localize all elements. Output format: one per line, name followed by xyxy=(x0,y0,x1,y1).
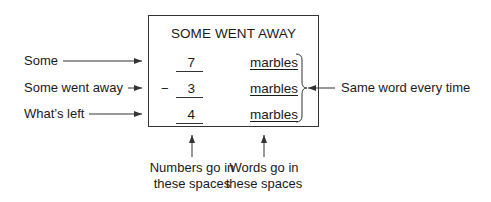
minus-sign: − xyxy=(161,81,169,96)
label-whats-left: What’s left xyxy=(24,106,84,121)
word-slot-some: marbles xyxy=(250,55,298,70)
caption-words-line1: Words go in xyxy=(222,160,306,176)
label-same-word-every-time: Same word every time xyxy=(341,80,470,95)
caption-words-line2: these spaces xyxy=(222,176,306,192)
number-slot-went-away: 3 xyxy=(176,82,203,98)
box-title: SOME WENT AWAY xyxy=(149,26,318,41)
word-slot-whats-left: marbles xyxy=(250,107,298,122)
label-some-went-away: Some went away xyxy=(24,80,123,95)
number-slot-some: 7 xyxy=(176,56,203,72)
number-value: 7 xyxy=(187,55,203,70)
number-value: 4 xyxy=(187,107,203,122)
subtraction-box: SOME WENT AWAY 7 marbles − 3 marbles 4 m… xyxy=(148,15,319,127)
label-some: Some xyxy=(24,53,58,68)
number-slot-whats-left: 4 xyxy=(176,108,203,124)
number-value: 3 xyxy=(187,81,203,96)
word-slot-went-away: marbles xyxy=(250,81,298,96)
caption-words: Words go in these spaces xyxy=(222,160,306,192)
